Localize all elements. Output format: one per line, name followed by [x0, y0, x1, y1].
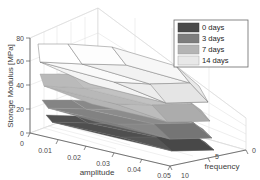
z-tick-60: 60 [16, 58, 24, 65]
z-axis-label: Storage Modulus [MPa] [6, 44, 15, 128]
y-tick-10: 10 [181, 172, 189, 179]
y-tick-5: 5 [215, 153, 219, 160]
z-axis-tick-labels: 0 20 40 60 80 [16, 35, 24, 137]
legend[interactable]: 0 days 3 days 7 days 14 days [174, 20, 248, 67]
x-tick-0: 0 [20, 140, 24, 147]
z-tick-80: 80 [16, 35, 24, 42]
legend-swatch-0-days [178, 23, 199, 32]
legend-item-14-days[interactable]: 14 days [178, 56, 229, 65]
x-tick-0.01: 0.01 [38, 147, 52, 154]
legend-label-3-days: 3 days [202, 34, 225, 43]
y-axis-label: frequency [204, 162, 239, 171]
x-axis-label: amplitude [80, 168, 115, 177]
legend-label-0-days: 0 days [202, 23, 225, 32]
legend-label-14-days: 14 days [202, 56, 229, 65]
legend-item-3-days[interactable]: 3 days [178, 34, 225, 43]
x-tick-0.05: 0.05 [157, 172, 171, 179]
z-tick-0: 0 [20, 130, 24, 137]
x-tick-0.04: 0.04 [127, 166, 141, 173]
legend-swatch-7-days [178, 45, 199, 54]
x-tick-0.03: 0.03 [96, 160, 110, 167]
z-tick-20: 20 [16, 106, 24, 113]
legend-swatch-3-days [178, 34, 199, 43]
legend-item-7-days[interactable]: 7 days [178, 45, 225, 54]
z-tick-40: 40 [16, 82, 24, 89]
legend-label-7-days: 7 days [202, 45, 225, 54]
plot-canvas: 0 20 40 60 80 0 0.01 0.02 0.03 0.04 0.05… [0, 0, 260, 180]
y-tick-0: 0 [252, 147, 256, 154]
x-tick-0.02: 0.02 [67, 154, 81, 161]
legend-swatch-14-days [178, 56, 199, 65]
figure-3d-surface-plot: 0 20 40 60 80 0 0.01 0.02 0.03 0.04 0.05… [0, 0, 260, 180]
legend-item-0-days[interactable]: 0 days [178, 23, 225, 32]
